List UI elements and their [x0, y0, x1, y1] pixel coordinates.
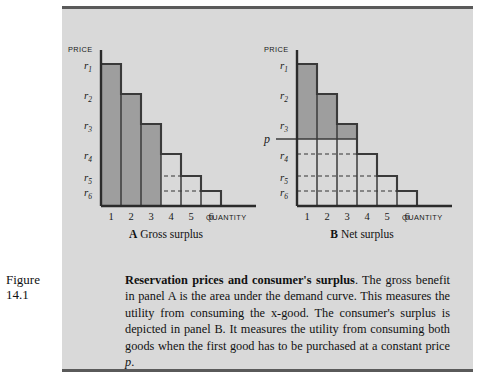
- figure-number-line1: Figure: [6, 272, 62, 287]
- surplus-unit-2: [317, 94, 337, 206]
- bar-2: [121, 94, 141, 206]
- quantity-ticks-a: 1 2 3 4 5 6: [108, 211, 213, 222]
- svg-text:r2: r2: [84, 89, 92, 104]
- figure-caption: Reservation prices and consumer's surplu…: [125, 272, 450, 370]
- svg-text:1: 1: [304, 211, 309, 222]
- svg-text:r6: r6: [280, 186, 288, 201]
- svg-text:r5: r5: [84, 171, 92, 186]
- svg-text:r1: r1: [280, 59, 288, 74]
- svg-text:1: 1: [108, 211, 113, 222]
- svg-text:5: 5: [188, 211, 193, 222]
- svg-text:r5: r5: [280, 171, 288, 186]
- price-label-p: p: [263, 132, 270, 146]
- panel-a-title: Gross surplus: [140, 228, 203, 240]
- quantity-ticks-b: 1 2 3 4 5 6: [304, 211, 409, 222]
- bar-3: [141, 124, 161, 206]
- top-rule: [62, 6, 473, 9]
- panel-b-caption: B Net surplus: [262, 228, 462, 240]
- panel-b-title: Net surplus: [341, 228, 394, 240]
- figure-number: Figure 14.1: [6, 272, 62, 302]
- svg-text:2: 2: [128, 211, 133, 222]
- figure-page: Figure 14.1: [0, 0, 495, 391]
- price-ticks-a: r1 r2 r3 r4 r5 r6: [84, 59, 92, 201]
- svg-text:3: 3: [344, 211, 349, 222]
- svg-text:r3: r3: [84, 119, 92, 134]
- svg-text:4: 4: [364, 211, 370, 222]
- figure-number-line2: 14.1: [6, 287, 62, 302]
- surplus-unit-3: [337, 124, 357, 206]
- svg-text:r4: r4: [280, 149, 288, 164]
- svg-text:r2: r2: [280, 89, 288, 104]
- svg-text:5: 5: [384, 211, 389, 222]
- surplus-unit-1: [297, 64, 317, 206]
- bars-shaded-a: [101, 64, 161, 206]
- svg-text:r4: r4: [84, 149, 92, 164]
- caption-lead: Reservation prices and consumer's surplu…: [125, 273, 355, 287]
- net-surplus-shading: [297, 64, 357, 206]
- svg-text:r3: r3: [280, 119, 288, 134]
- svg-text:4: 4: [168, 211, 174, 222]
- panel-b-letter: B: [330, 228, 338, 240]
- y-axis-label-b: PRICE: [264, 45, 289, 54]
- price-ticks-b: r1 r2 r3 r4 r5 r6: [280, 59, 288, 201]
- panel-a-caption: A Gross surplus: [66, 228, 266, 240]
- chart-panel-a: PRICE QUANTITY r1 r2 r3 r4 r5 r6 1 2 3 4…: [66, 36, 266, 241]
- svg-text:3: 3: [148, 211, 153, 222]
- svg-text:6: 6: [208, 211, 213, 222]
- y-axis-label-a: PRICE: [68, 45, 93, 54]
- svg-text:2: 2: [324, 211, 329, 222]
- svg-text:r1: r1: [84, 59, 92, 74]
- panel-a-letter: A: [129, 228, 137, 240]
- bar-1: [101, 64, 121, 206]
- caption-period: .: [131, 355, 134, 369]
- svg-text:6: 6: [404, 211, 409, 222]
- svg-text:r6: r6: [84, 186, 92, 201]
- chart-panel-b: PRICE QUANTITY p r1 r2 r3 r4 r5 r6 1 2 3…: [262, 36, 462, 241]
